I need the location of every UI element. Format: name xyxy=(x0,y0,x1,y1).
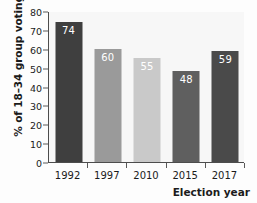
bar-value-label: 59 xyxy=(212,54,239,65)
x-tick-label: 2017 xyxy=(202,170,246,181)
x-axis-title: Election year xyxy=(173,186,250,198)
y-tick-label: 50 xyxy=(18,63,42,74)
y-tick-label: 60 xyxy=(18,44,42,55)
bar-value-label: 60 xyxy=(94,52,121,63)
plot-area: 7460554859 xyxy=(48,12,244,163)
bar-value-label: 48 xyxy=(173,74,200,85)
x-tick-label: 2015 xyxy=(163,170,207,181)
y-tick-mark xyxy=(43,49,48,50)
y-tick-label: 20 xyxy=(18,120,42,131)
y-tick-label: 10 xyxy=(18,139,42,150)
bar-slot: 48 xyxy=(167,12,206,162)
bar[interactable]: 74 xyxy=(55,22,82,162)
bar-slot: 55 xyxy=(127,12,166,162)
y-tick-label: 30 xyxy=(18,101,42,112)
y-tick-label: 40 xyxy=(18,82,42,93)
plot-inner: 7460554859 xyxy=(49,12,244,162)
bar[interactable]: 55 xyxy=(133,58,160,162)
y-axis-tick-labels: 01020304050607080 xyxy=(18,0,42,203)
y-tick-label: 80 xyxy=(18,7,42,18)
x-tick-label: 1997 xyxy=(85,170,129,181)
bar-slot: 60 xyxy=(88,12,127,162)
y-tick-mark xyxy=(43,87,48,88)
bar-value-label: 55 xyxy=(133,61,160,72)
y-tick-mark xyxy=(43,106,48,107)
x-tick-mark xyxy=(205,163,206,168)
bar[interactable]: 59 xyxy=(212,51,239,162)
x-tick-mark xyxy=(126,163,127,168)
x-tick-mark xyxy=(87,163,88,168)
y-tick-label: 0 xyxy=(18,158,42,169)
y-tick-mark xyxy=(43,144,48,145)
x-tick-mark xyxy=(166,163,167,168)
y-tick-mark xyxy=(43,30,48,31)
bar-value-label: 74 xyxy=(55,25,82,36)
y-tick-mark xyxy=(43,163,48,164)
x-tick-mark xyxy=(244,163,245,168)
y-tick-mark xyxy=(43,12,48,13)
bar[interactable]: 48 xyxy=(173,71,200,162)
y-tick-label: 70 xyxy=(18,25,42,36)
bar[interactable]: 60 xyxy=(94,49,121,162)
bar-chart: % of 18–34 group voting 0102030405060708… xyxy=(0,0,257,203)
bar-slot: 74 xyxy=(49,12,88,162)
y-tick-mark xyxy=(43,68,48,69)
bar-slot: 59 xyxy=(206,12,245,162)
x-tick-label: 2010 xyxy=(124,170,168,181)
y-tick-mark xyxy=(43,125,48,126)
x-tick-label: 1992 xyxy=(46,170,90,181)
